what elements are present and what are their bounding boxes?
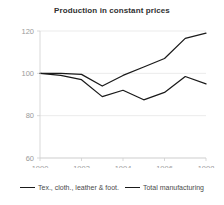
y-tick-label: 100 [21,69,34,78]
legend-line-swatch-icon [125,187,140,188]
chart-title: Production in constant prices [0,6,224,15]
gridlines-group [40,31,206,158]
x-tick-label: 1992 [73,164,90,168]
legend-item-total-manufacturing: Total manufacturing [125,184,204,191]
series-line-0 [40,73,206,99]
legend-label: Tex., cloth., leather & foot. [38,184,119,191]
chart-legend: Tex., cloth., leather & foot. Total manu… [0,184,224,191]
y-axis-ticks-group: 6080100120 [21,27,40,163]
x-tick-label: 1998 [198,164,215,168]
x-tick-label: 1990 [32,164,49,168]
legend-line-swatch-icon [20,187,35,188]
x-axis-ticks-group: 19901992199419961998 [32,158,215,168]
plot-area: 6080100120 19901992199419961998 [0,20,224,168]
x-tick-label: 1996 [156,164,173,168]
plot-svg: 6080100120 19901992199419961998 [0,20,224,168]
legend-item-tex-cloth-leather-foot: Tex., cloth., leather & foot. [20,184,119,191]
series-line-1 [40,33,206,86]
y-tick-label: 80 [26,111,34,120]
legend-label: Total manufacturing [143,184,204,191]
y-tick-label: 60 [26,154,34,163]
y-tick-label: 120 [21,27,34,36]
axes-group [40,31,206,158]
x-tick-label: 1994 [115,164,132,168]
series-group [40,33,206,100]
production-line-chart: Production in constant prices 6080100120… [0,0,224,205]
